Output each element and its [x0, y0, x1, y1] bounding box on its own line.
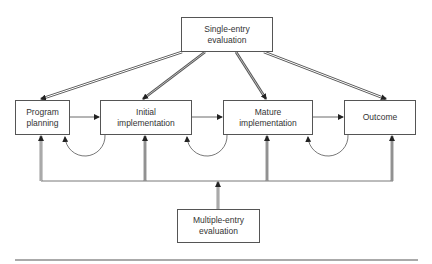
- node-label: Mature: [239, 107, 297, 118]
- node-label: Initial: [117, 107, 175, 118]
- node-label: Outcome: [363, 112, 398, 123]
- node-initial-implementation: Initialimplementation: [100, 100, 192, 135]
- node-single-entry-evaluation: Single-entryevaluation: [181, 17, 273, 52]
- node-label: implementation: [117, 118, 175, 129]
- node-label: evaluation: [204, 35, 249, 46]
- node-label: Multiple-entry: [193, 215, 244, 226]
- node-label: Program: [26, 107, 59, 118]
- single-entry-arrows: [41, 52, 386, 99]
- node-mature-implementation: Matureimplementation: [223, 100, 313, 135]
- node-label: planning: [26, 118, 59, 129]
- node-label: evaluation: [193, 226, 244, 237]
- node-outcome: Outcome: [344, 100, 416, 135]
- node-label: implementation: [239, 118, 297, 129]
- node-program-planning: Programplanning: [15, 100, 70, 135]
- feedback-arcs: [65, 135, 348, 156]
- node-multiple-entry-evaluation: Multiple-entryevaluation: [177, 209, 260, 243]
- node-label: Single-entry: [204, 24, 249, 35]
- multiple-entry-bus: [41, 136, 393, 209]
